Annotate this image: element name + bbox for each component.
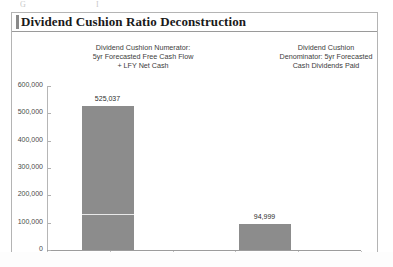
y-axis-tick-mark bbox=[48, 250, 51, 251]
scan-artifact: G bbox=[20, 0, 26, 9]
page-bottom-edge bbox=[0, 252, 393, 267]
bar[interactable] bbox=[239, 224, 291, 250]
y-axis-tick-mark bbox=[48, 195, 51, 196]
y-axis-tick-label: 100,000 bbox=[3, 218, 43, 225]
bar-segment-divider bbox=[82, 214, 134, 215]
y-axis-tick-label: 600,000 bbox=[3, 81, 43, 88]
y-axis-tick-label: 500,000 bbox=[3, 108, 43, 115]
y-axis-tick-label: 0 bbox=[3, 245, 43, 252]
bar[interactable] bbox=[82, 106, 134, 250]
bar-value-label: 94,999 bbox=[225, 213, 305, 220]
y-axis-tick-label: 300,000 bbox=[3, 163, 43, 170]
bar-value-label: 525,037 bbox=[68, 95, 148, 102]
y-axis-tick-mark bbox=[48, 141, 51, 142]
y-axis-tick-mark bbox=[48, 86, 51, 87]
y-axis-tick-mark bbox=[48, 168, 51, 169]
y-axis-tick-label: 400,000 bbox=[3, 136, 43, 143]
x-axis-line bbox=[47, 250, 361, 251]
y-axis-tick-mark bbox=[48, 223, 51, 224]
chart-panel: Dividend Cushion Ratio Deconstruction Di… bbox=[11, 12, 378, 267]
bar-chart-plot-area: 0100,000200,000300,000400,000500,000600,… bbox=[12, 13, 379, 267]
y-axis-tick-label: 200,000 bbox=[3, 190, 43, 197]
scan-artifacts-strip: G I bbox=[0, 0, 393, 11]
y-axis-tick-mark bbox=[48, 113, 51, 114]
scan-artifact: I bbox=[96, 0, 99, 9]
